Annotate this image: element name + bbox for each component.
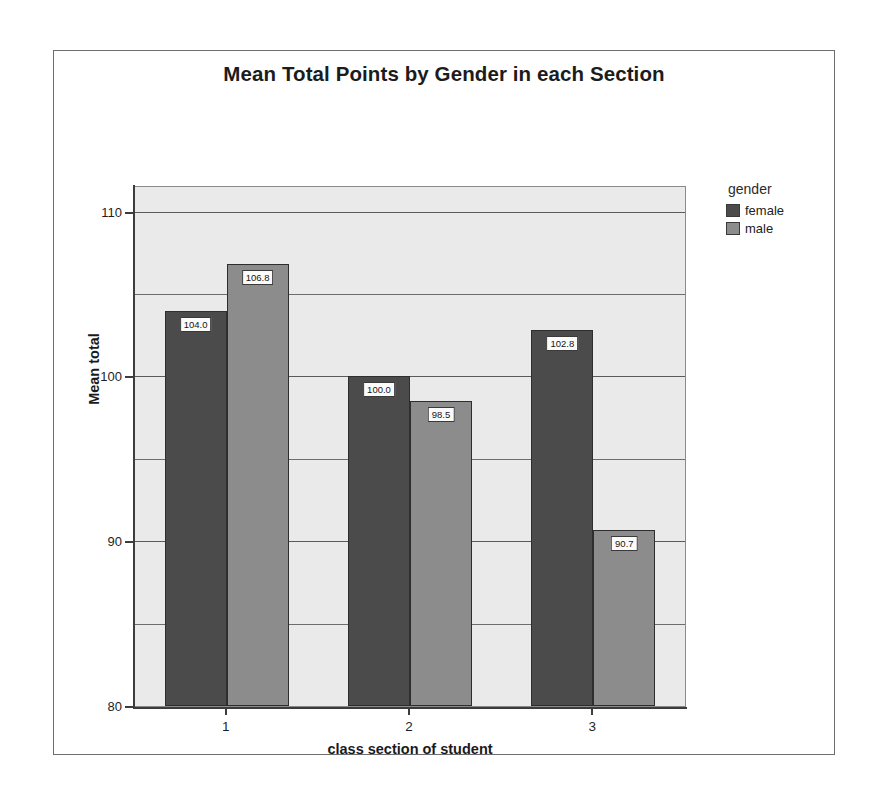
legend-items: femalemale [726,203,836,236]
bar-value-label: 104.0 [180,317,212,332]
chart-legend: gender femalemale [726,181,836,239]
x-tick-mark [408,707,410,715]
bar-female-section-2[interactable]: 100.0 [348,376,410,706]
bar-male-section-2[interactable]: 98.5 [410,401,472,706]
legend-item-label: male [745,221,773,236]
y-tick-label: 110 [54,204,122,219]
y-tick-mark [125,212,133,214]
bar-male-section-3[interactable]: 90.7 [593,530,655,706]
x-tick-mark [591,707,593,715]
chart-title: Mean Total Points by Gender in each Sect… [54,62,834,86]
legend-item-label: female [745,203,784,218]
legend-swatch-icon [726,222,740,235]
bar-value-label: 106.8 [242,270,274,285]
gridline-minor [135,294,685,295]
bar-female-section-3[interactable]: 102.8 [531,330,593,706]
y-tick-label: 90 [54,534,122,549]
legend-item-male[interactable]: male [726,221,836,236]
plot-area: 104.0106.8100.098.5102.890.7 [134,186,686,707]
y-axis-line [133,185,135,708]
bar-value-label: 90.7 [611,536,638,551]
bar-female-section-1[interactable]: 104.0 [165,311,227,706]
x-tick-mark [225,707,227,715]
x-axis-title: class section of student [134,741,686,757]
x-tick-label: 3 [589,719,597,734]
x-tick-label: 1 [222,719,230,734]
chart-frame: Mean Total Points by Gender in each Sect… [53,50,835,755]
legend-item-female[interactable]: female [726,203,836,218]
y-axis-title: Mean total [86,289,102,449]
y-tick-mark [125,706,133,708]
gridline-major [135,212,685,213]
legend-swatch-icon [726,204,740,217]
x-tick-label: 2 [405,719,413,734]
x-axis-line [133,707,687,709]
legend-title: gender [726,181,836,197]
bar-value-label: 102.8 [546,336,578,351]
bar-male-section-1[interactable]: 106.8 [227,264,289,706]
bar-value-label: 98.5 [428,407,455,422]
plot-inner: 104.0106.8100.098.5102.890.7 [135,187,685,706]
y-tick-mark [125,541,133,543]
y-tick-label: 80 [54,699,122,714]
bar-value-label: 100.0 [363,382,395,397]
y-tick-mark [125,376,133,378]
